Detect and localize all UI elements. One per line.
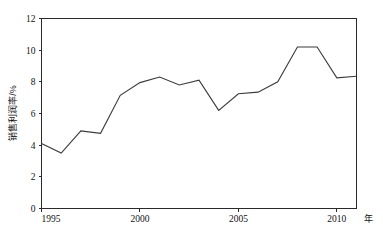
y-axis-tick-label: 12 <box>26 14 36 24</box>
chart-container: 024681012 1995200020052010 销售利润率/% 年 <box>0 0 383 238</box>
y-axis-tick-label: 8 <box>31 77 36 87</box>
y-axis-tick-label: 6 <box>31 109 36 119</box>
x-axis-tick-label: 2005 <box>229 214 248 224</box>
line-chart: 024681012 1995200020052010 销售利润率/% 年 <box>0 0 383 238</box>
x-axis-tick-label: 1995 <box>42 214 61 224</box>
y-axis-tick-label: 0 <box>31 204 36 214</box>
x-axis-title-label: 年 <box>364 213 373 224</box>
y-axis-tick-label: 2 <box>31 172 36 182</box>
y-axis-tick-label: 4 <box>31 141 36 151</box>
y-axis-title: 销售利润率/% <box>7 85 18 141</box>
x-axis-tick-label: 2010 <box>327 214 346 224</box>
chart-background <box>0 0 383 238</box>
y-axis-tick-label: 10 <box>26 46 36 56</box>
x-axis-tick-label: 2000 <box>130 214 149 224</box>
y-axis-title-label: 销售利润率/% <box>7 85 18 141</box>
